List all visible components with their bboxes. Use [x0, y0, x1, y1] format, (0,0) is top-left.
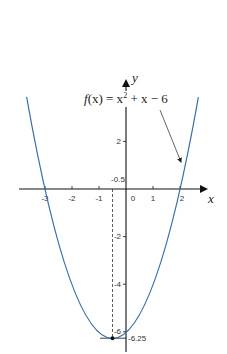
x-tick-label: -2 — [68, 194, 76, 203]
y-tick-label: -6 — [114, 327, 122, 336]
x-tick-label: 0 — [131, 194, 136, 203]
x-tick-labels: -3 -2 -1 0 1 2 — [41, 194, 184, 203]
x-tick-label: -1 — [95, 194, 103, 203]
x-tick-label: 2 — [180, 194, 185, 203]
x-axis-label: x — [207, 191, 214, 206]
y-tick-labels: 2 -2 -4 -6 — [114, 137, 122, 336]
vertex-y-label: -6.25 — [128, 334, 147, 343]
y-tick-label: 2 — [117, 137, 122, 146]
parabola-chart: -3 -2 -1 0 1 2 2 -2 -4 -6 x y -0.5 -6.25… — [0, 0, 227, 354]
y-tick-label: -4 — [114, 280, 122, 289]
x-tick-label: 1 — [151, 194, 156, 203]
svg-text:f(x) = x2 + x − 6: f(x) = x2 + x − 6 — [84, 91, 168, 106]
vertex-x-label: -0.5 — [111, 175, 125, 184]
vertex-point — [111, 336, 115, 340]
parabola-curve — [27, 97, 199, 339]
y-tick-label: -2 — [114, 232, 122, 241]
annotation-arrow — [160, 110, 181, 162]
function-label: f(x) = x2 + x − 6 — [82, 91, 191, 107]
y-axis-label: y — [130, 70, 138, 85]
